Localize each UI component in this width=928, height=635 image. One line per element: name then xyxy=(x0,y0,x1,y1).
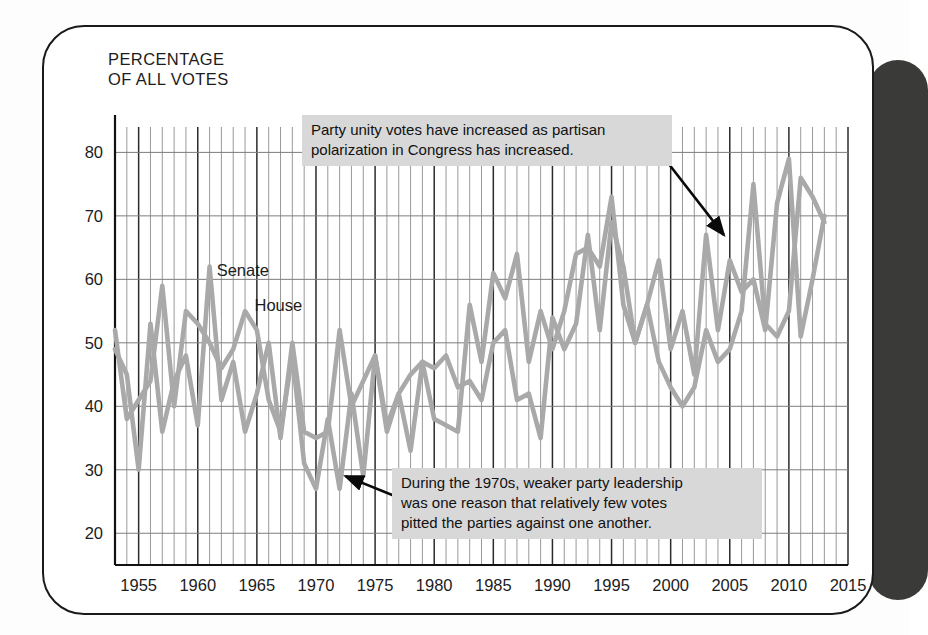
y-tick-label: 60 xyxy=(85,270,103,288)
x-tick-label: 2000 xyxy=(652,576,689,594)
x-tick-label: 2005 xyxy=(711,576,748,594)
x-tick-label: 2015 xyxy=(830,576,867,594)
x-tick-label: 1995 xyxy=(593,576,630,594)
annotation-callout-bottom-callout: During the 1970s, weaker party leadershi… xyxy=(392,468,762,539)
x-tick-label: 2010 xyxy=(771,576,808,594)
x-tick-label: 1980 xyxy=(416,576,453,594)
x-tick-label: 1960 xyxy=(179,576,216,594)
annotation-callout-top-callout: Party unity votes have increased as part… xyxy=(302,115,672,166)
figure-card: PERCENTAGE OF ALL VOTES 2030405060708019… xyxy=(42,25,874,615)
y-tick-label: 40 xyxy=(85,397,103,415)
y-tick-label: 30 xyxy=(85,461,103,479)
x-tick-label: 1970 xyxy=(298,576,335,594)
y-tick-label: 50 xyxy=(85,334,103,352)
x-tick-label: 1990 xyxy=(534,576,571,594)
x-tick-label: 1965 xyxy=(239,576,276,594)
page-edge-tab xyxy=(868,60,928,600)
x-tick-label: 1975 xyxy=(357,576,394,594)
series-label-house: House xyxy=(255,296,303,314)
series-label-senate: Senate xyxy=(217,261,269,279)
annotation-arrow-1 xyxy=(346,476,393,495)
y-tick-label: 70 xyxy=(85,207,103,225)
x-tick-label: 1955 xyxy=(120,576,157,594)
y-tick-label: 20 xyxy=(85,524,103,542)
x-tick-label: 1985 xyxy=(475,576,512,594)
y-tick-label: 80 xyxy=(85,143,103,161)
